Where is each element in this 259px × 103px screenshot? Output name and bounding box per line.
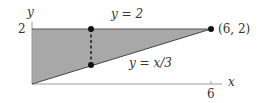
x-axis-label: x bbox=[228, 75, 235, 89]
cross-section-top-point bbox=[88, 26, 94, 32]
point-6-2 bbox=[208, 26, 214, 32]
upper-curve-label: y = 2 bbox=[110, 7, 143, 21]
y-axis-label: y bbox=[26, 5, 34, 19]
cross-section-bottom-point bbox=[88, 62, 94, 68]
lower-curve-label: y = x/3 bbox=[128, 56, 172, 70]
x-tick-label-6: 6 bbox=[207, 87, 215, 101]
diagram-canvas: y 2 y = 2 (6, 2) y = x/3 x 6 bbox=[0, 0, 259, 103]
point-6-2-label: (6, 2) bbox=[218, 22, 250, 36]
y-tick-label-2: 2 bbox=[18, 22, 26, 36]
